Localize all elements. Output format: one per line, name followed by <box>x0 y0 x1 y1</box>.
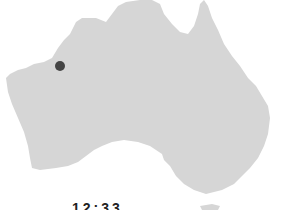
australia-mainland <box>6 0 270 194</box>
australia-map <box>0 0 291 210</box>
tasmania <box>200 204 220 210</box>
location-marker[interactable] <box>55 61 65 71</box>
time-label: 12:33 <box>72 200 123 210</box>
